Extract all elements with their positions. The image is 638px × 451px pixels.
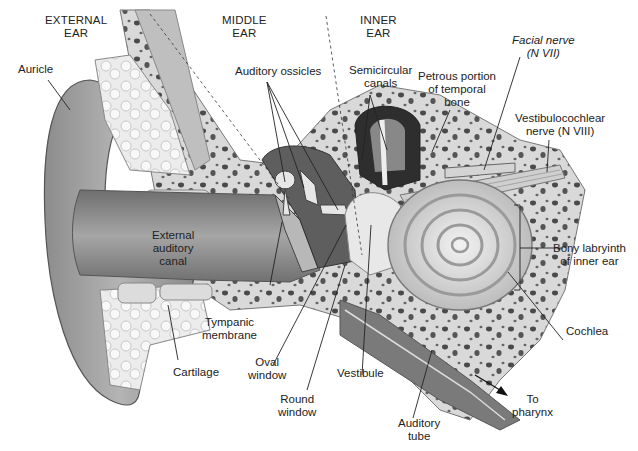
label-round-window: Round window — [278, 393, 316, 419]
label-cochlea: Cochlea — [566, 325, 608, 338]
region-external-ear: EXTERNAL EAR — [45, 14, 107, 40]
label-tympanic-membrane: Tympanic membrane — [202, 316, 257, 342]
label-auricle: Auricle — [18, 63, 53, 76]
region-inner-ear: INNER EAR — [360, 14, 397, 40]
label-cartilage: Cartilage — [173, 366, 219, 379]
label-auditory-tube: Auditory tube — [398, 417, 440, 443]
label-petrous-portion: Petrous portion of temporal bone — [418, 70, 496, 109]
label-to-pharynx: To pharynx — [512, 393, 553, 419]
label-semicircular-canals: Semicircular canals — [349, 64, 412, 90]
cochlea-shape — [388, 180, 532, 310]
label-vestibule: Vestibule — [337, 367, 384, 380]
label-external-auditory-canal: External auditory canal — [152, 229, 194, 268]
label-auditory-ossicles: Auditory ossicles — [235, 65, 321, 78]
label-oval-window: Oval window — [248, 356, 286, 382]
region-middle-ear: MIDDLE EAR — [222, 14, 267, 40]
label-vestibulocochlear-nerve: Vestibulocochlear nerve (N VIII) — [515, 112, 605, 138]
label-facial-nerve: Facial nerve (N VII) — [512, 34, 575, 60]
label-bony-labyrinth: Bony labryinth of inner ear — [553, 242, 626, 268]
